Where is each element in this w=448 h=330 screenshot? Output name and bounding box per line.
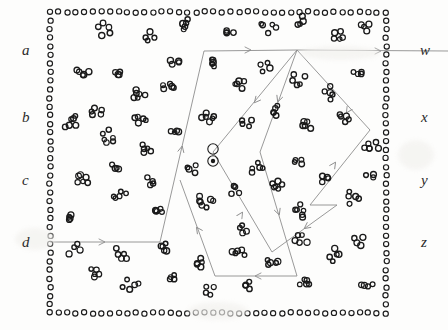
boundary-dot bbox=[47, 9, 52, 14]
boundary-dot bbox=[48, 18, 53, 23]
boundary-dot bbox=[384, 52, 389, 57]
particle-dot bbox=[257, 165, 263, 171]
boundary-dot bbox=[383, 276, 388, 281]
particle-dot bbox=[327, 254, 332, 259]
direction-arrow bbox=[237, 211, 245, 219]
boundary-dot bbox=[133, 10, 138, 15]
particle-dot bbox=[370, 282, 375, 287]
particle-dot bbox=[332, 245, 338, 251]
boundary-dot bbox=[47, 87, 52, 92]
marked-particle-core bbox=[211, 159, 215, 163]
boundary-dot bbox=[107, 311, 112, 316]
particle-dot bbox=[320, 179, 325, 184]
boundary-dot bbox=[73, 311, 78, 316]
particle-dot bbox=[106, 24, 112, 30]
boundary-dot bbox=[47, 26, 52, 31]
particle-dot bbox=[152, 35, 157, 40]
particle-dot bbox=[207, 119, 213, 125]
boundary-dot bbox=[289, 10, 294, 15]
boundary-dot bbox=[48, 250, 53, 255]
boundary-dot bbox=[357, 310, 362, 315]
boundary-dot bbox=[47, 310, 52, 315]
boundary-dot bbox=[357, 9, 362, 14]
boundary-dot bbox=[383, 138, 388, 143]
particle-dot bbox=[373, 140, 378, 145]
boundary-dot bbox=[47, 181, 52, 186]
boundary-dot bbox=[383, 10, 388, 15]
particle-dot bbox=[267, 65, 273, 71]
particle-dot bbox=[229, 191, 234, 196]
boundary-dot bbox=[47, 276, 52, 281]
particle-dot bbox=[161, 83, 166, 88]
particle-dot bbox=[352, 236, 357, 241]
particle-dot bbox=[366, 21, 372, 27]
boundary-dot bbox=[383, 35, 388, 40]
boundary-dot bbox=[91, 311, 96, 316]
boundary-dot bbox=[48, 207, 53, 212]
particle-dot bbox=[279, 182, 284, 187]
boundary-dot bbox=[305, 310, 310, 315]
boundary-dot bbox=[117, 310, 122, 315]
scan-noise-blot bbox=[300, 46, 380, 60]
particle-dot bbox=[99, 32, 105, 38]
particle-dot bbox=[302, 74, 307, 79]
particle-dot bbox=[163, 241, 168, 246]
particle-dot bbox=[135, 120, 141, 126]
boundary-dot bbox=[384, 69, 389, 74]
direction-arrow bbox=[245, 47, 251, 53]
boundary-dot bbox=[383, 233, 388, 238]
particle-dot bbox=[297, 282, 302, 287]
boundary-dot bbox=[47, 96, 52, 101]
particle-dot bbox=[203, 290, 208, 295]
particle-dot bbox=[127, 287, 133, 293]
particle-dot bbox=[83, 174, 89, 180]
boundary-dot bbox=[48, 52, 53, 57]
particle-dot bbox=[294, 82, 299, 87]
boundary-dot bbox=[366, 10, 371, 15]
scan-noise-blot bbox=[398, 140, 434, 170]
particle-dot bbox=[258, 62, 263, 67]
boundary-dot bbox=[384, 44, 389, 49]
particle-dot bbox=[106, 127, 111, 132]
boundary-dot bbox=[210, 9, 215, 14]
boundary-dot bbox=[383, 78, 388, 83]
direction-arrow bbox=[330, 160, 338, 168]
particle-dot bbox=[291, 72, 296, 77]
boundary-dot bbox=[383, 268, 388, 273]
edge-label-y: y bbox=[421, 173, 428, 188]
boundary-dot bbox=[159, 9, 164, 14]
boundary-dot bbox=[48, 122, 53, 127]
boundary-dot bbox=[384, 259, 389, 264]
boundary-dot bbox=[297, 310, 302, 315]
boundary-dot bbox=[124, 10, 129, 15]
boundary-dot bbox=[262, 310, 267, 315]
particle-dot bbox=[75, 180, 80, 185]
boundary-dot bbox=[314, 310, 319, 315]
particle-dot bbox=[322, 89, 327, 94]
boundary-dot bbox=[383, 302, 388, 307]
boundary-dot bbox=[383, 165, 388, 170]
boundary-dot bbox=[151, 10, 156, 15]
particle-dot bbox=[343, 119, 348, 124]
particle-dot bbox=[347, 201, 352, 206]
boundary-dot bbox=[48, 78, 53, 83]
boundary-dot bbox=[340, 310, 345, 315]
boundary-dot bbox=[384, 285, 389, 290]
particle-dot bbox=[193, 163, 198, 168]
boundary-dot bbox=[384, 18, 389, 23]
particle-dot bbox=[73, 122, 79, 128]
boundary-dot bbox=[384, 199, 389, 204]
boundary-dot bbox=[383, 113, 388, 118]
particle-dot bbox=[231, 30, 237, 36]
boundary-dot bbox=[48, 139, 53, 144]
boundary-dot bbox=[81, 9, 86, 14]
boundary-dot bbox=[48, 44, 53, 49]
boundary-dot bbox=[384, 190, 389, 195]
particle-dot bbox=[266, 31, 271, 36]
particle-dot bbox=[247, 279, 252, 284]
particle-dot bbox=[120, 285, 125, 290]
scan-noise-blot bbox=[188, 302, 248, 320]
particle-dot bbox=[242, 253, 247, 258]
boundary-dot bbox=[65, 10, 70, 15]
boundary-dot bbox=[280, 311, 285, 316]
